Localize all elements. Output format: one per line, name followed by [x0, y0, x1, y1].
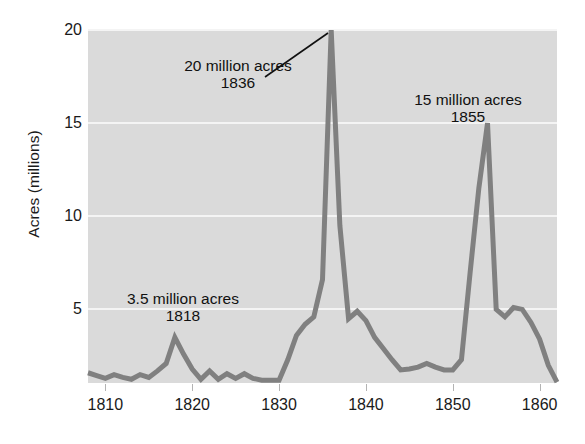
annotation-peak-1836: 20 million acres 1836 [158, 57, 318, 92]
annotation-1855-line2: 1855 [388, 108, 548, 125]
x-tick-label-1840: 1840 [331, 397, 401, 413]
annotation-1836-line1: 20 million acres [184, 57, 292, 74]
x-tick-label-1810: 1810 [70, 397, 140, 413]
x-tick-label-1860: 1860 [505, 397, 575, 413]
x-tick-label-1850: 1850 [418, 397, 488, 413]
x-tick-mark-1810 [105, 384, 106, 391]
annotation-peak-1818: 3.5 million acres 1818 [98, 290, 268, 325]
annotation-1818-line2: 1818 [98, 307, 268, 324]
annotation-peak-1855: 15 million acres 1855 [388, 91, 548, 126]
x-tick-mark-1850 [453, 384, 454, 391]
x-tick-mark-1840 [366, 384, 367, 391]
x-tick-mark-1830 [279, 384, 280, 391]
x-tick-label-1820: 1820 [157, 397, 227, 413]
x-tick-label-1830: 1830 [244, 397, 314, 413]
annotation-1836-line2: 1836 [158, 74, 318, 91]
x-tick-mark-1860 [540, 384, 541, 391]
line-chart-figure: Acres (millions) 5101520 181018201830184… [0, 0, 585, 444]
annotation-1855-line1: 15 million acres [414, 91, 522, 108]
x-tick-mark-1820 [192, 384, 193, 391]
annotation-1818-line1: 3.5 million acres [127, 290, 239, 307]
